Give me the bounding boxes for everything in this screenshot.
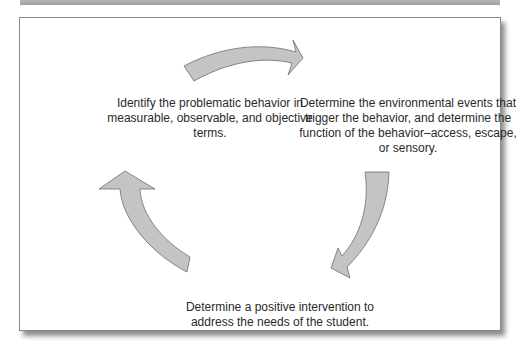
step-positive-intervention: Determine a positive intervention to add… (165, 300, 395, 330)
step-determine-function: Determine the environmental events that … (296, 96, 520, 156)
step-identify-behavior: Identify the problematic behavior in mea… (95, 96, 325, 141)
curved-arrow-down-left-icon (331, 172, 389, 278)
curved-arrow-up-icon (99, 171, 190, 272)
cycle-arrows (0, 0, 522, 351)
curved-arrow-right-icon (184, 40, 303, 81)
